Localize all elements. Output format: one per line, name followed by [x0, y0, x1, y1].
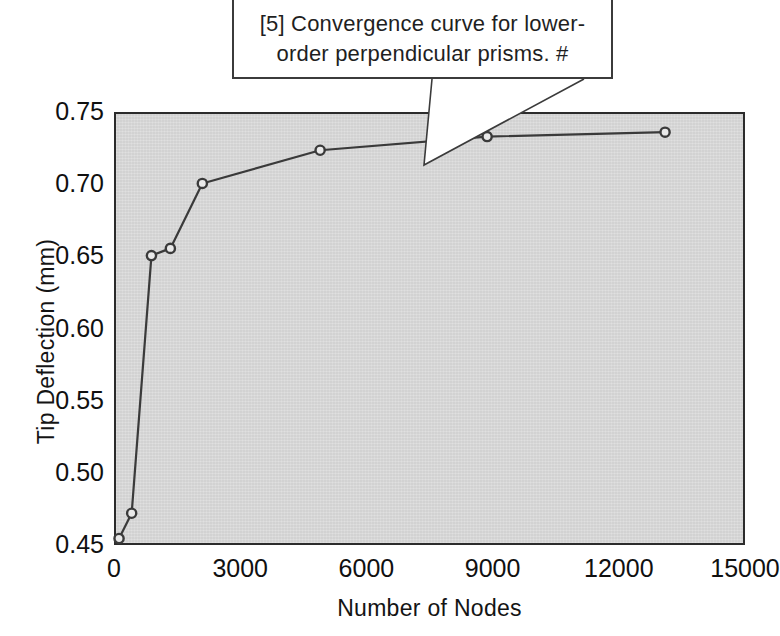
data-point-marker: [198, 179, 207, 188]
x-tick-label: 3000: [212, 554, 268, 582]
callout-box: [5] Convergence curve for lower- order p…: [232, 0, 613, 79]
data-point-marker: [147, 251, 156, 260]
x-tick-label: 6000: [339, 554, 395, 582]
data-point-marker: [316, 146, 325, 155]
data-point-marker: [660, 128, 669, 137]
x-axis-title: Number of Nodes: [114, 595, 745, 622]
data-point-marker: [166, 244, 175, 253]
x-tick-label: 9000: [465, 554, 521, 582]
x-tick-label: 12000: [584, 554, 654, 582]
data-point-marker: [127, 509, 136, 518]
y-tick-label: 0.45: [0, 532, 104, 557]
data-series-layer: [114, 112, 745, 545]
callout-label: [5] Convergence curve for lower- order p…: [250, 9, 596, 69]
data-point-marker: [114, 534, 123, 543]
y-axis-title: Tip Deflection (mm): [33, 192, 60, 492]
data-point-marker: [483, 132, 492, 141]
series-line: [119, 132, 665, 538]
x-tick-label: 15000: [710, 554, 780, 582]
y-tick-label: 0.75: [0, 99, 104, 124]
x-tick-label: 0: [107, 554, 121, 582]
